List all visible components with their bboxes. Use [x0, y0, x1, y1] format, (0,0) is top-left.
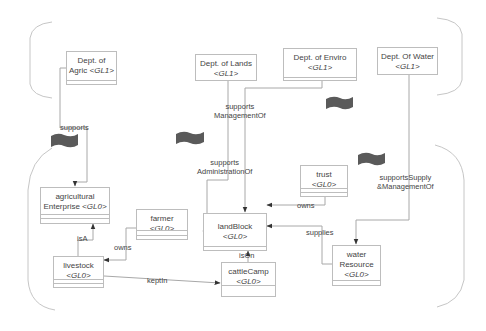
node-title-2: Enterprise — [43, 202, 79, 211]
divider — [222, 285, 275, 286]
divider — [41, 218, 109, 219]
node-level-tag: <GL0> — [204, 232, 266, 242]
node-dept-enviro[interactable]: Dept. of Enviro <GL1> — [283, 48, 357, 81]
flag-icon — [176, 132, 204, 145]
edge-label-is-on: isOn — [239, 251, 254, 260]
divider — [284, 77, 356, 78]
edge-label-owns-farmer: owns — [114, 243, 132, 252]
node-water-resource[interactable]: water Resource <GL0> — [332, 245, 381, 286]
node-dept-water[interactable]: Dept. Of Water <GL1> — [377, 47, 438, 75]
edge-label-kept-in: keptIn — [147, 276, 167, 285]
edge-label-owns-trust: owns — [297, 201, 315, 210]
edge-label-line: AdministrationOf — [197, 167, 252, 176]
node-farmer[interactable]: farmer <GL0> — [136, 209, 188, 240]
divider — [333, 280, 380, 281]
edge-label-is-a: isA — [77, 234, 87, 243]
gl1-region-left-bracket — [30, 22, 52, 98]
node-title: agricultural — [41, 188, 109, 202]
node-land-block[interactable]: landBlock <GL0> — [203, 213, 267, 251]
divider — [137, 235, 187, 236]
gl0-region-boundary — [28, 148, 55, 310]
node-level-tag: <GL0> — [82, 202, 106, 211]
divider — [137, 230, 187, 231]
gl1-region-right-bracket — [437, 18, 462, 95]
node-agricultural-enterprise[interactable]: agricultural Enterprise <GL0> — [40, 187, 110, 224]
node-title: Dept. of Lands — [196, 55, 256, 69]
node-title: livestock — [54, 257, 103, 271]
node-level-tag: <GL1> — [284, 63, 356, 73]
divider — [67, 80, 116, 81]
edge-label-supports: supports — [60, 123, 89, 132]
node-level-tag: <GL0> — [137, 224, 187, 234]
node-level-tag: <GL1> — [378, 62, 437, 72]
node-level-tag: <GL1> — [196, 69, 256, 79]
flag-icon — [51, 134, 78, 148]
node-title: farmer — [137, 210, 187, 224]
flag-icon — [358, 153, 385, 166]
node-title-2: Agric — [69, 66, 87, 75]
edge-label-supports-supply: supportsSupply &ManagementOf — [377, 173, 434, 191]
edge-label-line: &ManagementOf — [377, 182, 434, 191]
node-title: Dept. of Enviro — [284, 49, 356, 63]
node-title: cattleCamp — [222, 263, 275, 277]
node-title-2: Resource — [333, 260, 380, 270]
node-livestock[interactable]: livestock <GL0> — [53, 256, 104, 288]
node-level-tag: <GL1> — [90, 66, 114, 75]
edge-label-line: supports — [214, 102, 266, 111]
node-trust[interactable]: trust <GL0> — [300, 165, 348, 197]
node-dept-lands[interactable]: Dept. of Lands <GL1> — [195, 54, 257, 81]
edge-label-supports-management: supports ManagementOf — [214, 102, 266, 120]
node-level-tag: <GL0> — [333, 270, 380, 280]
node-dept-agric[interactable]: Dept. of Agric <GL1> — [66, 51, 117, 85]
gl0-region-boundary-right — [435, 145, 464, 307]
edge-label-supplies: supplies — [306, 228, 334, 237]
node-title: trust — [301, 166, 347, 180]
node-title: landBlock — [204, 214, 266, 232]
divider — [41, 214, 109, 215]
edge-owns-trust — [267, 197, 325, 205]
divider — [204, 246, 266, 247]
edge-label-line: supports — [197, 158, 252, 167]
divider — [54, 283, 103, 284]
divider — [301, 192, 347, 193]
node-title: water — [333, 246, 380, 260]
edge-label-line: supportsSupply — [377, 173, 434, 182]
node-title: Dept. of — [67, 52, 116, 66]
divider — [54, 279, 103, 280]
node-title: Dept. Of Water — [378, 48, 437, 62]
divider — [301, 188, 347, 189]
edge-label-supports-administration: supports AdministrationOf — [197, 158, 252, 176]
node-cattle-camp[interactable]: cattleCamp <GL0> — [221, 262, 276, 297]
edge-label-line: ManagementOf — [214, 111, 266, 120]
flag-icon — [326, 97, 353, 110]
